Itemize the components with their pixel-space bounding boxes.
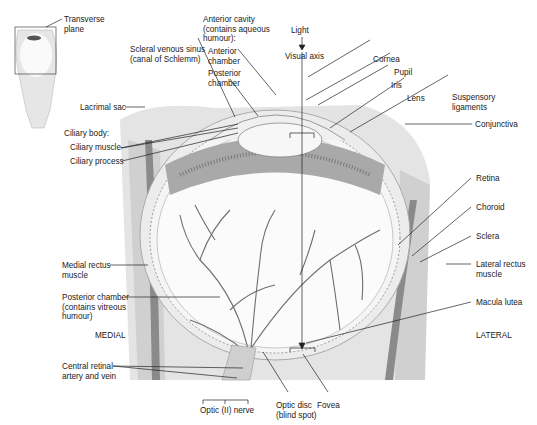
label-cornea: Cornea (373, 55, 400, 65)
label-ciliary-process: Ciliary process (70, 157, 124, 167)
label-iris: Iris (391, 81, 402, 91)
label-retina: Retina (476, 174, 500, 184)
label-sclera: Sclera (476, 232, 499, 242)
label-central-retinal-artery-vein: Central retinal artery and vein (62, 362, 116, 381)
label-lateral: LATERAL (476, 331, 512, 341)
inset-eye-icon (15, 19, 62, 128)
label-medial: MEDIAL (95, 331, 125, 341)
label-choroid: Choroid (476, 203, 505, 213)
label-scleral-venous-sinus: Scleral venous sinus (canal of Schlemm) (130, 45, 205, 64)
lens-shape (238, 123, 322, 157)
label-anterior-chamber: Anterior chamber (208, 47, 240, 66)
label-transverse-plane: Transverse plane (64, 15, 105, 34)
label-lacrimal-sac: Lacrimal sac (80, 103, 126, 113)
label-fovea: Fovea (317, 401, 340, 411)
label-optic-nerve: Optic (II) nerve (200, 406, 254, 416)
label-pupil: Pupil (394, 68, 412, 78)
label-posterior-chamber-anterior: Posterior chamber (208, 69, 241, 88)
label-suspensory-ligaments: Suspensory ligaments (452, 93, 495, 112)
label-macula-lutea: Macula lutea (476, 298, 522, 308)
label-lens: Lens (407, 94, 425, 104)
label-anterior-cavity: Anterior cavity (contains aqueous humour… (203, 15, 270, 44)
label-medial-rectus: Medial rectus muscle (62, 261, 111, 280)
label-optic-disc: Optic disc (blind spot) (276, 401, 317, 420)
label-lateral-rectus: Lateral rectus muscle (476, 260, 526, 279)
label-ciliary-muscle: Ciliary muscle (70, 143, 121, 153)
label-conjunctiva: Conjunctiva (475, 120, 518, 130)
label-ciliary-body: Ciliary body: (64, 129, 109, 139)
label-visual-axis: Visual axis (285, 52, 324, 62)
label-light: Light (291, 26, 309, 36)
label-posterior-chamber-vitreous: Posterior chamber (contains vitreous hum… (62, 293, 129, 322)
